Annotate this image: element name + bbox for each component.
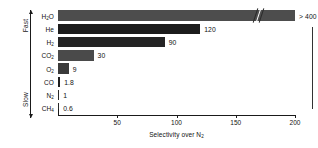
x-tick-150 xyxy=(236,115,237,118)
bar-row: CH40.6 xyxy=(58,102,295,115)
x-axis-title-text: Selectivity over N xyxy=(149,131,201,138)
category-label-co: CO xyxy=(44,78,54,85)
bar-o2 xyxy=(58,63,69,73)
bar-co xyxy=(58,77,60,87)
bar-row: H290 xyxy=(58,36,295,49)
bar-row: CO1.8 xyxy=(58,75,295,88)
category-label-subscript: 2 xyxy=(51,55,54,60)
bar-row: CO230 xyxy=(58,49,295,62)
category-label-ch4: CH4 xyxy=(42,105,54,112)
bar-row: H2O> 400 xyxy=(58,9,295,22)
category-label-base: He xyxy=(45,25,54,32)
x-axis-title: Selectivity over N2 xyxy=(58,131,295,138)
x-tick-label-50: 50 xyxy=(114,119,121,126)
speed-axis-label-fast: Fast xyxy=(22,9,29,43)
category-label-base: CO xyxy=(44,78,54,85)
x-tick-200 xyxy=(295,115,296,118)
value-label-n2: 1 xyxy=(63,92,67,99)
bar-row: He120 xyxy=(58,22,295,35)
value-label-o2: 9 xyxy=(73,65,77,72)
value-label-h2: 90 xyxy=(169,39,177,46)
bar-row: N21 xyxy=(58,89,295,102)
category-label-co2: CO2 xyxy=(41,52,54,59)
speed-axis-line xyxy=(30,10,31,118)
bar-row: O29 xyxy=(58,62,295,75)
category-label-he: He xyxy=(45,25,54,32)
category-label-h2o: H2O xyxy=(41,12,54,19)
speed-axis-arrow-down-icon xyxy=(29,114,33,118)
category-label-base: CH xyxy=(42,105,52,112)
category-label-o2: O2 xyxy=(46,65,54,72)
bar-h2 xyxy=(58,37,165,47)
x-tick-100 xyxy=(177,115,178,118)
speed-axis-label-slow: Slow xyxy=(22,83,29,117)
value-label-ch4: 0.6 xyxy=(63,105,73,112)
category-label-tail: O xyxy=(49,12,54,19)
x-tick-label-200: 200 xyxy=(289,119,300,126)
speed-axis-arrow-up-icon xyxy=(29,10,33,14)
bar-co2 xyxy=(58,50,94,60)
value-label-co2: 30 xyxy=(98,52,106,59)
category-label-base: CO xyxy=(41,52,51,59)
x-tick-label-150: 150 xyxy=(230,119,241,126)
bar-he xyxy=(58,24,200,34)
speed-direction-axis: Fast Slow xyxy=(14,10,38,118)
figure-right-edge-rule xyxy=(312,27,313,109)
selectivity-bar-chart-figure: Fast Slow H2O> 400He120H290CO230O29CO1.8… xyxy=(0,0,318,148)
bar-n2 xyxy=(58,90,59,100)
x-tick-label-100: 100 xyxy=(171,119,182,126)
value-label-h2o: > 400 xyxy=(299,12,317,19)
category-label-subscript: 2 xyxy=(51,95,54,100)
value-label-co: 1.8 xyxy=(64,78,74,85)
category-label-h2: H2 xyxy=(47,39,54,46)
value-label-he: 120 xyxy=(204,25,216,32)
plot-area: H2O> 400He120H290CO230O29CO1.8N21CH40.6 xyxy=(58,9,295,115)
x-axis-title-subscript: 2 xyxy=(201,134,204,139)
category-label-subscript: 2 xyxy=(51,42,54,47)
category-label-n2: N2 xyxy=(47,92,54,99)
x-tick-50 xyxy=(117,115,118,118)
category-label-subscript: 4 xyxy=(51,108,54,113)
category-label-subscript: 2 xyxy=(51,68,54,73)
